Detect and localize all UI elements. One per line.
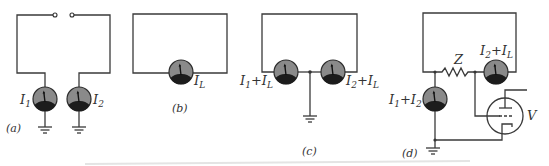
wire — [72, 15, 110, 87]
panel-c: I1+IL I2+IL (c) — [239, 14, 379, 158]
ammeter-icon — [321, 60, 345, 84]
panel-b: IL (b) — [133, 14, 227, 115]
ammeter-icon — [423, 87, 447, 111]
panel-caption: (c) — [302, 145, 317, 158]
ammeter-icon — [33, 87, 57, 111]
vacuum-tube-icon — [435, 90, 527, 140]
meter-label: I2+IL — [345, 73, 379, 90]
meter-label: I2+IL — [479, 43, 513, 60]
ground-icon — [303, 116, 317, 122]
resistor-label: Z — [453, 52, 464, 67]
ammeter-icon — [274, 60, 298, 84]
meter-label: I1 — [19, 92, 31, 109]
ammeter-icon — [67, 87, 91, 111]
ammeter-icon — [169, 60, 193, 84]
meter-label: I1+IL — [239, 73, 273, 90]
open-terminal — [53, 13, 57, 17]
panel-d: Z I2+IL I1+I2 V (d) — [388, 13, 538, 160]
ground-icon — [426, 148, 440, 154]
meter-label: I1+I2 — [388, 92, 422, 109]
ground-icon — [72, 127, 86, 133]
circuit-figure: I1 I2 (a) IL (b) I1+IL I2+IL (c) Z I2+IL — [0, 0, 549, 166]
tube-label: V — [527, 108, 538, 123]
meter-label: I2 — [92, 92, 104, 109]
panel-a: I1 I2 (a) — [6, 13, 110, 135]
panel-caption: (b) — [172, 102, 188, 115]
ammeter-icon — [484, 60, 508, 84]
wire — [262, 14, 357, 72]
panel-caption: (a) — [6, 122, 21, 135]
page-edge — [85, 161, 470, 164]
ground-icon — [38, 127, 52, 133]
wire — [17, 15, 54, 87]
meter-label: IL — [193, 73, 205, 90]
open-terminal — [70, 13, 74, 17]
panel-caption: (d) — [402, 147, 418, 160]
resistor-icon — [435, 68, 484, 76]
